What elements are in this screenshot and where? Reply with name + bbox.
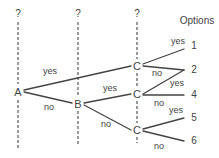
edge-label-c2-yes: yes bbox=[170, 78, 185, 88]
edge-label-b-no: no bbox=[101, 119, 111, 129]
node-a: A bbox=[14, 86, 22, 98]
node-c3: C bbox=[133, 124, 141, 136]
edge-c3-6-no bbox=[143, 131, 184, 141]
option-4: 4 bbox=[191, 89, 197, 100]
option-2: 2 bbox=[191, 64, 197, 75]
option-5: 5 bbox=[191, 112, 197, 123]
option-1: 1 bbox=[191, 40, 197, 51]
option-6: 6 bbox=[191, 135, 197, 146]
edge-label-a-yes: yes bbox=[43, 66, 58, 76]
edge-label-c1-yes: yes bbox=[171, 36, 186, 46]
edge-label-c1-no: no bbox=[152, 68, 162, 78]
node-b: B bbox=[74, 98, 81, 110]
column-a-question: ? bbox=[15, 8, 21, 19]
edge-label-c3-no: no bbox=[154, 141, 164, 151]
edge-label-c3-yes: yes bbox=[169, 105, 184, 115]
edge-b-c2-yes bbox=[84, 94, 131, 103]
decision-tree-diagram: ? ? ? Options A B C C C yes no yes no ye… bbox=[0, 0, 219, 158]
edge-c1-1-yes bbox=[143, 49, 184, 64]
column-b-question: ? bbox=[75, 8, 81, 19]
column-c-question: ? bbox=[134, 8, 140, 19]
edge-label-a-no: no bbox=[44, 102, 54, 112]
options-header: Options bbox=[180, 15, 214, 26]
edge-label-b-yes: yes bbox=[103, 83, 118, 93]
edge-c3-5-yes bbox=[143, 118, 184, 129]
edge-c1-2-no bbox=[143, 66, 184, 70]
node-c2: C bbox=[133, 88, 141, 100]
edge-label-c2-no: no bbox=[154, 98, 164, 108]
node-c1: C bbox=[133, 60, 141, 72]
